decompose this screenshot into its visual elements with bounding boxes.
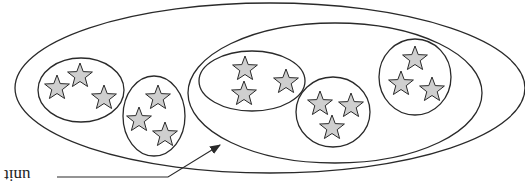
star-icon	[403, 46, 428, 70]
star-icon	[308, 91, 333, 115]
nested-clusters-diagram: unit	[0, 0, 525, 189]
star-icon	[92, 85, 117, 109]
cluster-1	[38, 58, 124, 122]
diagram-svg	[0, 0, 525, 189]
star-icon	[420, 77, 445, 101]
star-icon	[153, 122, 178, 146]
cluster-4	[296, 77, 370, 147]
star-icon	[274, 69, 299, 93]
cluster-3	[199, 51, 305, 111]
star-icon	[233, 56, 258, 80]
star-icon	[232, 81, 257, 105]
star-icon	[320, 115, 345, 139]
cluster-2	[123, 76, 185, 156]
star-icon	[45, 75, 70, 99]
star-icon	[127, 107, 152, 131]
star-icon	[339, 93, 364, 117]
star-icon	[146, 85, 171, 109]
outer-ellipse	[15, 3, 525, 173]
unit-label: unit	[4, 167, 30, 184]
cluster-ellipse	[296, 77, 370, 147]
star-icon	[68, 63, 93, 87]
clusters-group	[38, 39, 451, 156]
star-icon	[389, 71, 414, 95]
cluster-5	[379, 39, 451, 115]
